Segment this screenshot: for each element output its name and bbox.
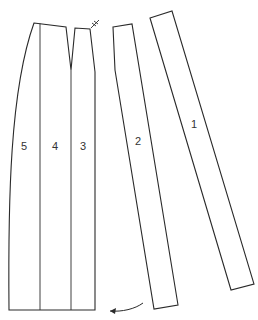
pattern-diagram: 5 4 3 2 1 — [0, 0, 258, 320]
panel-label-3: 3 — [80, 140, 86, 152]
panel-2-strip — [113, 24, 178, 309]
joined-panels-5-4-3 — [9, 20, 99, 310]
panel-label-2: 2 — [135, 135, 141, 147]
curved-arrow-icon — [110, 303, 143, 314]
panel-label-4: 4 — [52, 140, 58, 152]
panel-label-5: 5 — [21, 140, 27, 152]
panel-1-strip — [150, 11, 254, 290]
panel-label-1: 1 — [191, 118, 197, 130]
notch-mark-icon — [91, 20, 99, 28]
panel-group-outline — [9, 23, 95, 310]
